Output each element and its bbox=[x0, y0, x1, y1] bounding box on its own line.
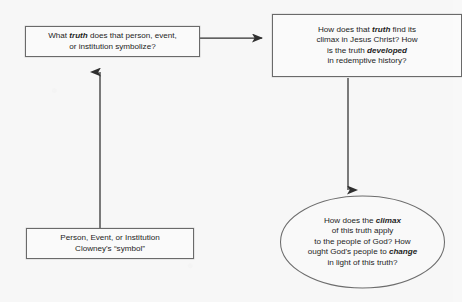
node-symbol-source-label: Person, Event, or Institution Clowney's … bbox=[55, 233, 164, 254]
node-climax-development-label: How does that truth find its climax in J… bbox=[311, 25, 422, 66]
node-application-text-1: How does the bbox=[324, 216, 376, 225]
node-climax-development[interactable]: How does that truth find its climax in J… bbox=[272, 14, 462, 77]
node-application-emphasis-climax: climax bbox=[376, 216, 401, 225]
node-climax-development-emphasis-developed: developed bbox=[367, 46, 407, 55]
node-application-emphasis-change: change bbox=[389, 247, 417, 256]
node-climax-development-text-1: How does that bbox=[318, 25, 372, 34]
arrow-down[interactable] bbox=[341, 76, 357, 198]
node-application-label: How does the climax of this truth apply … bbox=[299, 216, 427, 268]
node-symbol-source[interactable]: Person, Event, or Institution Clowney's … bbox=[26, 228, 194, 259]
arrow-up[interactable] bbox=[92, 58, 108, 230]
node-symbolize-label: What truth does that person, event, or i… bbox=[43, 31, 182, 52]
node-climax-development-text-3: in redemptive history? bbox=[327, 56, 406, 65]
node-application-text-3: in light of this truth? bbox=[327, 258, 397, 267]
node-symbolize[interactable]: What truth does that person, event, or i… bbox=[25, 26, 200, 57]
node-climax-development-emphasis-truth: truth bbox=[372, 25, 390, 34]
arrow-right[interactable] bbox=[198, 31, 274, 45]
node-symbolize-text-1: What bbox=[48, 31, 69, 40]
node-application[interactable]: How does the climax of this truth apply … bbox=[280, 196, 445, 288]
node-symbolize-emphasis-truth: truth bbox=[69, 31, 87, 40]
